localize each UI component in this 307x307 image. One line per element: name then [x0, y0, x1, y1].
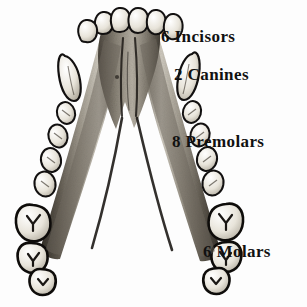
label-molars: 6 Molars	[203, 243, 271, 260]
label-premolars: 8 Premolars	[172, 133, 264, 150]
tooth-anatomy-figure: 6 Incisors 2 Canines 8 Premolars 6 Molar…	[0, 0, 307, 307]
incisor-tooth	[111, 8, 130, 32]
incisor-tooth	[128, 8, 148, 33]
incisor-tooth	[78, 20, 97, 42]
label-incisors: 6 Incisors	[161, 28, 235, 45]
molar-tooth	[29, 269, 55, 295]
molar-tooth	[203, 268, 229, 294]
label-canines: 2 Canines	[174, 66, 249, 83]
mental-foramen	[115, 75, 119, 79]
